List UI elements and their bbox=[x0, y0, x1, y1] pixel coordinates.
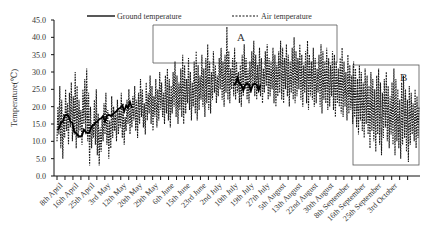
y-tick-label: 10.0 bbox=[32, 137, 46, 146]
y-tick-label: 5.0 bbox=[36, 155, 46, 164]
y-tick-label: 15.0 bbox=[32, 120, 46, 129]
y-tick-label: 20.0 bbox=[32, 103, 46, 112]
legend: Ground temperature Air temperature bbox=[87, 12, 312, 21]
y-tick-label: 35.0 bbox=[32, 51, 46, 60]
y-tick-label: 25.0 bbox=[32, 85, 46, 94]
y-tick-label: 0.0 bbox=[36, 172, 46, 181]
y-tick-label: 30.0 bbox=[32, 68, 46, 77]
y-ticks: 0.05.010.015.020.025.030.035.040.045.0 bbox=[32, 16, 54, 181]
legend-air-label: Air temperature bbox=[261, 12, 312, 21]
air-temperature-series bbox=[57, 27, 419, 166]
air-temperature-line bbox=[57, 27, 419, 166]
annotation-label-a: A bbox=[237, 31, 245, 43]
y-tick-label: 40.0 bbox=[32, 33, 46, 42]
annotation-box-a bbox=[153, 25, 337, 63]
legend-ground-label: Ground temperature bbox=[117, 12, 182, 21]
y-axis-label: Temperature(℃) bbox=[9, 69, 19, 127]
temperature-chart: Ground temperature Air temperature A B 0… bbox=[0, 0, 433, 246]
y-tick-label: 45.0 bbox=[32, 16, 46, 25]
x-ticks: 8th April16th April25th April3rd May12th… bbox=[38, 176, 408, 223]
